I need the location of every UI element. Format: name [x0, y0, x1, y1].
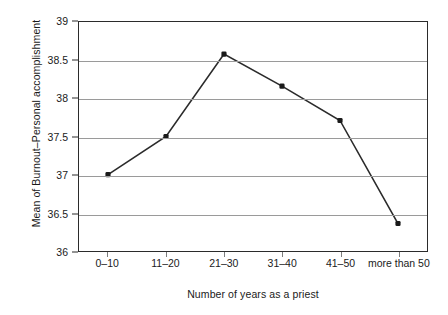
x-tick-mark	[166, 252, 167, 257]
x-tick-mark	[282, 252, 283, 257]
x-tick-label: more than 50	[368, 257, 430, 270]
x-axis-ticks: 0–1011–2021–3031–4041–50more than 50	[0, 0, 448, 315]
x-tick-mark	[341, 252, 342, 257]
x-axis-title: Number of years as a priest	[78, 288, 428, 300]
x-tick-mark	[399, 252, 400, 257]
x-tick-label: 11–20	[151, 257, 179, 270]
chart-figure: Mean of Burnout–Personal accomplishment …	[0, 0, 448, 315]
x-tick-label: 31–40	[268, 257, 297, 270]
x-tick-label: 0–10	[95, 257, 118, 270]
x-tick-mark	[224, 252, 225, 257]
x-tick-mark	[107, 252, 108, 257]
x-tick-label: 41–50	[326, 257, 355, 270]
x-tick-label: 21–30	[209, 257, 238, 270]
